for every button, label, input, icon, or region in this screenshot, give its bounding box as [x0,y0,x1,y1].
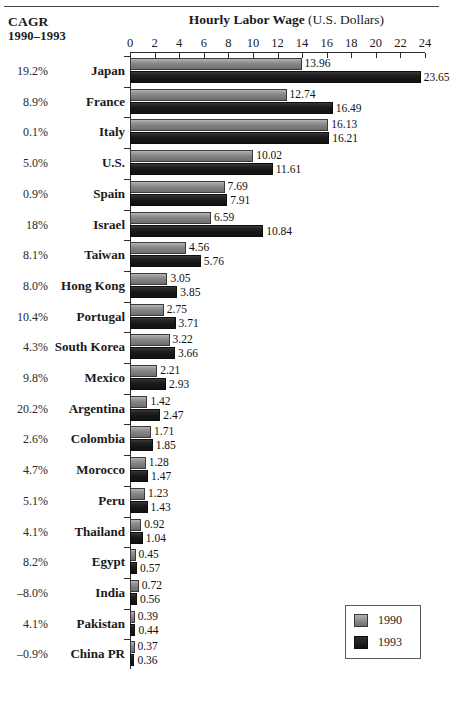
y-axis-tick-mark [124,424,130,425]
bar-value-label: 1.28 [149,456,169,468]
bar-1990 [130,304,164,316]
y-axis-tick-mark [124,56,130,57]
bar-value-label: 0.36 [137,654,157,666]
bar-1990 [130,58,302,70]
bar-1993 [130,317,176,329]
bar-value-label: 2.47 [163,409,183,421]
legend-label-1993: 1993 [378,635,402,650]
chart-row: 9.8%Mexico2.212.93 [0,363,443,396]
bar-value-label: 0.56 [140,593,160,605]
bar-value-label: 16.13 [331,118,357,130]
bar-1990 [130,181,225,193]
y-axis-tick-mark [124,486,130,487]
bar-1993 [130,102,333,114]
bar-1990 [130,334,170,346]
bar-value-label: 2.75 [167,303,187,315]
y-axis-tick-mark [124,455,130,456]
bar-value-label: 1.85 [156,439,176,451]
country-label: Israel [0,217,125,233]
y-axis-tick-mark [124,517,130,518]
x-tick-label: 6 [201,36,207,51]
country-label: Hong Kong [0,278,125,294]
bar-value-label: 3.85 [180,286,200,298]
bar-1993 [130,163,273,175]
chart-row: 5.0%U.S.10.0211.61 [0,148,443,181]
bar-1993 [130,470,148,482]
bar-value-label: 1.47 [151,470,171,482]
x-tick-label: 10 [247,36,260,51]
bar-value-label: 1.23 [148,487,168,499]
bar-value-label: 10.84 [266,225,292,237]
bar-value-label: 7.69 [228,180,248,192]
bar-value-label: 1.43 [151,501,171,513]
x-tick-label: 2 [151,36,157,51]
bar-1990 [130,488,145,500]
x-tick-label: 12 [271,36,284,51]
y-axis-tick-mark [124,332,130,333]
bar-1990 [130,150,253,162]
legend-label-1990: 1990 [378,613,402,628]
plot-area: 19.2%Japan13.9623.658.9%France12.7416.49… [0,54,443,694]
bar-1993 [130,532,143,544]
y-axis-tick-mark [124,578,130,579]
y-axis-tick-mark [124,547,130,548]
bar-value-label: 11.61 [276,163,301,175]
bar-value-label: 10.02 [256,149,282,161]
bar-1990 [130,611,135,623]
country-label: Peru [0,493,125,509]
y-axis-tick-mark [124,302,130,303]
bar-value-label: 23.65 [424,71,450,83]
cagr-header-line1: CAGR [8,14,128,29]
bar-1993 [130,255,201,267]
bar-1990 [130,242,186,254]
x-tick-label: 4 [176,36,182,51]
bar-value-label: 3.05 [170,272,190,284]
bar-value-label: 2.21 [160,364,180,376]
bar-value-label: 3.71 [179,317,199,329]
bar-1990 [130,89,287,101]
bar-1993 [130,132,329,144]
y-axis-tick-mark [124,148,130,149]
chart-row: 0.1%Italy16.1316.21 [0,117,443,150]
bar-value-label: 1.42 [150,395,170,407]
country-label: Taiwan [0,247,125,263]
bar-value-label: 1.04 [146,532,166,544]
bar-value-label: 0.72 [142,579,162,591]
bar-value-label: 5.76 [204,255,224,267]
country-label: China PR [0,646,125,662]
bar-value-label: 0.45 [139,548,159,560]
bar-1993 [130,654,134,666]
country-label: South Korea [0,339,125,355]
country-label: Egypt [0,554,125,570]
bar-1993 [130,194,227,206]
chart-row: 18%Israel6.5910.84 [0,210,443,243]
bar-value-label: 3.66 [178,347,198,359]
chart-row: 4.3%South Korea3.223.66 [0,332,443,365]
bar-1993 [130,225,263,237]
chart-row: 5.1%Peru1.231.43 [0,486,443,519]
bar-1993 [130,71,421,83]
bar-value-label: 2.93 [169,378,189,390]
country-label: Morocco [0,462,125,478]
x-tick-label: 16 [320,36,333,51]
bar-value-label: 13.96 [305,57,331,69]
bar-value-label: 1.71 [154,425,174,437]
bar-1990 [130,519,141,531]
bar-1993 [130,439,153,451]
chart-row: 0.9%Spain7.697.91 [0,179,443,212]
chart-row: 8.0%Hong Kong3.053.85 [0,271,443,304]
legend-swatch-1990-icon [354,614,368,627]
y-axis-tick-mark [124,363,130,364]
y-axis-tick-mark [124,117,130,118]
bar-value-label: 0.37 [138,640,158,652]
country-label: Pakistan [0,616,125,632]
bar-1993 [130,409,160,421]
bar-1990 [130,273,167,285]
bar-value-label: 6.59 [214,211,234,223]
country-label: Argentina [0,401,125,417]
bar-value-label: 3.22 [173,333,193,345]
chart-row: 4.7%Morocco1.281.47 [0,455,443,488]
country-label: France [0,94,125,110]
bar-1990 [130,426,151,438]
